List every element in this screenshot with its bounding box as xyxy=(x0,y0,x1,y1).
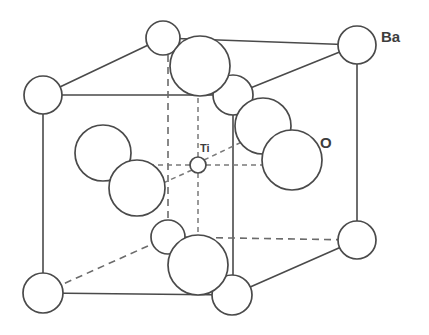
barium-atom-front-top-left xyxy=(24,76,62,114)
oxygen-atom-right-front xyxy=(262,130,322,190)
oxygen-atom-top xyxy=(170,36,230,96)
oxygen-atom-bottom xyxy=(168,235,228,295)
barium-atom-back-bottom-right xyxy=(338,221,376,259)
crystal-structure-figure: Ba O Ti xyxy=(0,0,429,335)
barium-atom-back-top-right xyxy=(338,26,376,64)
label-oxygen: O xyxy=(320,134,332,151)
cell-edge-top-left-diagonal xyxy=(43,38,163,95)
label-barium: Ba xyxy=(381,28,401,45)
barium-atom-front-bottom-left xyxy=(23,273,63,313)
titanium-atom-center xyxy=(190,157,206,173)
label-titanium: Ti xyxy=(200,142,210,154)
oxygen-atom-left-front xyxy=(109,160,165,216)
crystal-structure-canvas: Ba O Ti xyxy=(0,0,429,335)
titanium-atoms xyxy=(190,157,206,173)
